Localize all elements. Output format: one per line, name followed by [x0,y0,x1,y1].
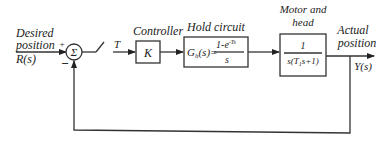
minus-sign: − [61,56,69,71]
plant-numerator: 1 [301,40,306,51]
plant-title-line1: Motor and [279,3,327,15]
input-label-rs: R(s) [15,52,36,66]
sampling-period-label: T [114,38,121,50]
plant-denominator: s(T1s+1) [287,56,319,67]
sampler-switch [96,42,104,52]
plus-sign: + [59,39,65,49]
controller-gain: K [143,46,153,60]
hold-denominator: s [225,54,229,65]
hold-lhs: Gh(s)= [187,46,217,60]
output-label-line1: Actual [336,23,369,37]
controller-title: Controller [133,24,184,38]
block-diagram: Desired position R(s) + − Σ T Controller… [0,0,388,141]
output-label-ys: Y(s) [354,60,372,73]
sigma-symbol: Σ [70,46,78,58]
output-label-line2: position [337,36,377,50]
hold-circuit-title: Hold circuit [186,20,246,34]
plant-title-line2: head [292,16,314,28]
input-label-line2: position [15,38,55,52]
